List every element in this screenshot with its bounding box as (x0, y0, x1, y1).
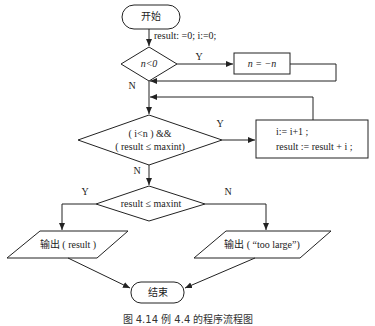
decision2-no-label: N (133, 165, 140, 177)
connector-loop-return (150, 97, 313, 120)
init-label: result: =0; i:=0; (154, 30, 216, 42)
connector-decision3-no (205, 204, 266, 230)
decision1-no-label: N (128, 80, 135, 92)
output-right-label: 输出 ( “too large”) (224, 239, 300, 251)
loop-body-line1: i:= i+1 ; (276, 126, 308, 138)
start-label: 开始 (141, 11, 161, 23)
negate-label: n = −n (248, 58, 277, 70)
output-left-label: 输出 ( result ) (40, 239, 96, 251)
decision2-line1: ( i<n ) && (128, 128, 171, 140)
connector-decision3-yes (62, 204, 96, 230)
decision1-yes-label: Y (195, 51, 202, 63)
decision2-shape (78, 115, 222, 165)
decision3-label: result ≤ maxint (121, 198, 181, 210)
decision3-no-label: N (224, 186, 231, 198)
end-label: 结束 (148, 287, 168, 299)
connector-right-to-end (185, 258, 255, 288)
decision2-line2: ( result ≤ maxint) (115, 141, 185, 153)
decision3-yes-label: Y (81, 186, 88, 198)
decision1-label: n<0 (141, 58, 158, 70)
connector-left-to-end (68, 258, 130, 288)
decision2-yes-label: Y (216, 118, 223, 130)
loop-body-line2: result := result + i ; (276, 141, 353, 153)
figure-caption: 图 4.14 例 4.4 的程序流程图 (123, 311, 254, 326)
